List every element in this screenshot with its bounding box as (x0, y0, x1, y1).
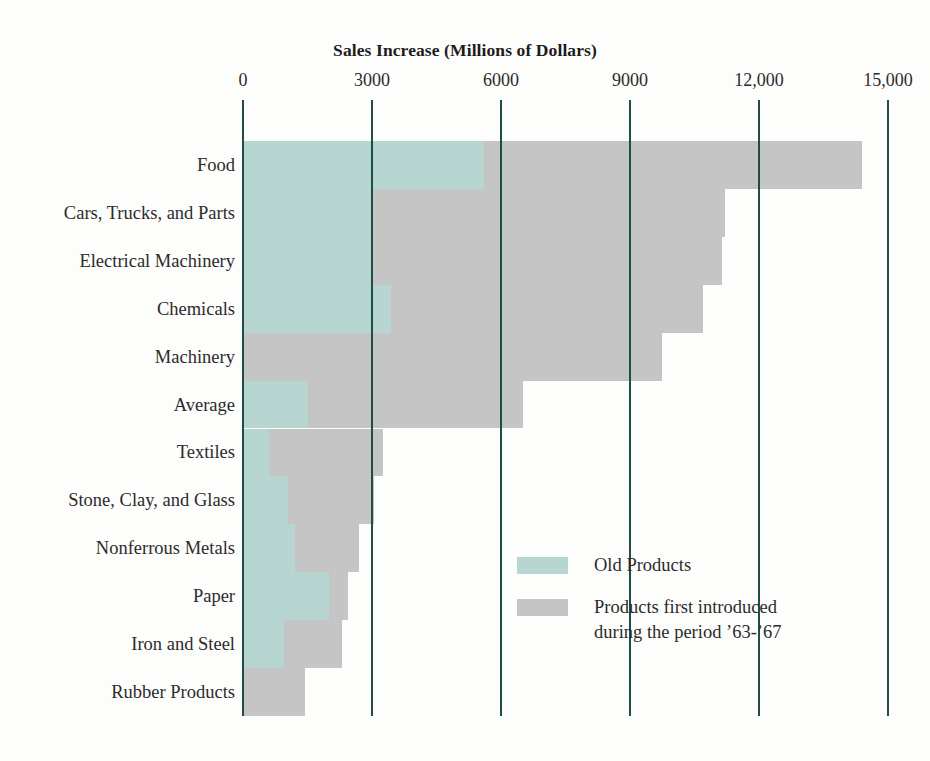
legend-label: Old Products (594, 553, 691, 578)
chart-legend: Old ProductsProducts first introduceddur… (517, 553, 847, 662)
gridline (500, 100, 503, 716)
legend-label: Products first introducedduring the peri… (594, 595, 782, 645)
legend-item: Old Products (517, 553, 847, 578)
gridline (242, 100, 245, 716)
legend-label-line1: Products first introduced (594, 597, 777, 617)
legend-swatch-new-products (517, 599, 568, 616)
gridline (371, 100, 374, 716)
gridline (887, 100, 890, 716)
legend-label-line1: Old Products (594, 555, 691, 575)
legend-swatch-old-products (517, 557, 568, 574)
chart-page: Sales Increase (Millions of Dollars) 030… (0, 0, 930, 761)
legend-item: Products first introducedduring the peri… (517, 595, 847, 645)
legend-label-line2: during the period ’63-’67 (594, 620, 782, 645)
